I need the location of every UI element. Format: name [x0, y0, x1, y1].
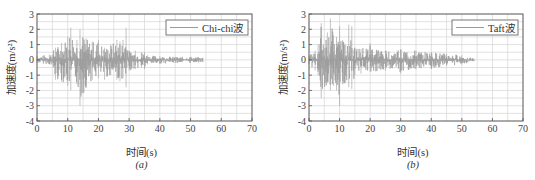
legend: Chi-chi波 — [166, 20, 248, 35]
y-tick-label: -1 — [26, 70, 34, 81]
x-tick-label: 0 — [307, 123, 312, 134]
x-tick-label: 10 — [335, 123, 345, 134]
x-tick-label: 30 — [124, 123, 134, 134]
y-tick-label: 2 — [29, 24, 34, 35]
y-tick-label: -1 — [298, 70, 306, 81]
x-tick-label: 70 — [518, 123, 528, 134]
y-tick-label: -4 — [26, 116, 34, 127]
x-tick-label: 30 — [396, 123, 406, 134]
y-tick-label: 1 — [301, 39, 306, 50]
y-tick-label: -2 — [26, 85, 34, 96]
y-tick-label: 2 — [301, 24, 306, 35]
y-tick-label: -3 — [26, 100, 34, 111]
y-tick-label: 3 — [301, 9, 306, 20]
y-tick-label: -3 — [298, 100, 306, 111]
x-tick-label: 20 — [365, 123, 375, 134]
y-tick-label: 3 — [29, 9, 34, 20]
figure: 0102030405060703210-1-2-3-4 Chi-chi波 加速度… — [0, 0, 535, 180]
x-tick-label: 40 — [426, 123, 436, 134]
y-tick-label: 0 — [29, 54, 34, 65]
waveform-chi-chi — [37, 28, 203, 106]
x-tick-label: 10 — [63, 123, 73, 134]
panel-caption: (a) — [135, 159, 148, 171]
chart-panel-b: 0102030405060703210-1-2-3-4 Taft波 加速度(m/… — [277, 9, 528, 172]
panel-caption: (b) — [407, 159, 420, 171]
y-axis-label: 加速度(m/s²) — [5, 39, 18, 95]
x-tick-label: 50 — [186, 123, 196, 134]
x-tick-label: 20 — [93, 123, 103, 134]
x-tick-label: 60 — [487, 123, 497, 134]
waveform-taft — [309, 19, 474, 106]
y-axis-label: 加速度(m/s²) — [277, 39, 290, 95]
legend-label: Chi-chi波 — [202, 22, 244, 34]
y-tick-label: -2 — [298, 85, 306, 96]
x-tick-label: 0 — [35, 123, 40, 134]
y-tick-label: 1 — [29, 39, 34, 50]
y-tick-label: 0 — [301, 54, 306, 65]
y-tick-label: -4 — [298, 116, 306, 127]
legend-label: Taft波 — [488, 22, 516, 34]
x-axis-label: 时间(s) — [397, 146, 429, 159]
chart-panel-a: 0102030405060703210-1-2-3-4 Chi-chi波 加速度… — [5, 9, 257, 172]
x-tick-label: 40 — [155, 123, 165, 134]
x-tick-label: 70 — [247, 123, 257, 134]
x-tick-label: 60 — [216, 123, 226, 134]
x-tick-label: 50 — [457, 123, 467, 134]
legend: Taft波 — [452, 20, 518, 35]
x-axis-label: 时间(s) — [126, 146, 158, 159]
